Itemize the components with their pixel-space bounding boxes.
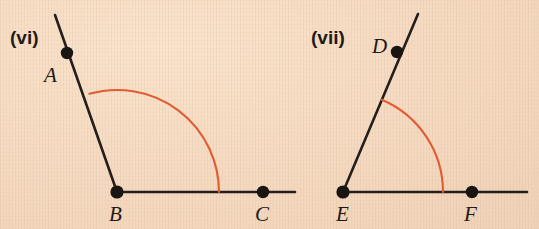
figure-label-vii: (vii) [311,27,345,48]
figure-vi: (vi) A B C [10,15,295,226]
point-label-d: D [371,34,387,58]
point-dot-e [336,185,349,198]
angle-arc-abc [89,90,219,192]
point-label-e: E [335,202,349,226]
point-dot-b [110,185,123,198]
point-label-a: A [42,63,57,87]
point-dot-a [61,47,73,59]
figure-label-vi: (vi) [10,27,39,48]
point-label-b: B [109,202,122,226]
angle-arc-def [382,100,443,192]
figure-vii: (vii) D E F [311,14,527,226]
point-label-c: C [255,202,270,226]
worksheet-page: (vi) A B C (vii) [0,0,539,229]
angle-diagrams-svg: (vi) A B C (vii) [0,0,539,229]
point-dot-d [391,46,403,58]
ray-BA [55,15,117,192]
point-label-f: F [463,202,477,226]
point-dot-f [466,186,478,198]
point-dot-c [257,186,269,198]
